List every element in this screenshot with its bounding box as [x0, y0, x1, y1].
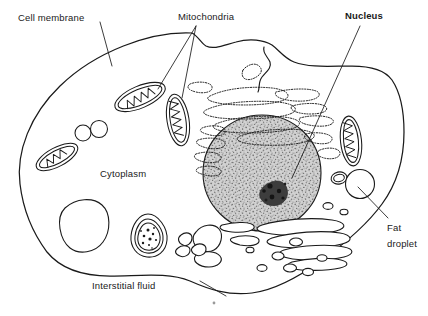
leader-cell-membrane	[100, 22, 112, 66]
lysosome	[131, 214, 167, 257]
label-mitochondria: Mitochondria	[178, 11, 234, 23]
leader-interstitial-fluid	[200, 281, 226, 296]
er-membrane-connection	[258, 47, 270, 92]
label-interstitial-fluid: Interstitial fluid	[92, 280, 155, 292]
label-cytoplasm: Cytoplasm	[100, 168, 146, 180]
mitochondrion-right	[338, 115, 364, 167]
mitochondrion-left	[32, 138, 82, 176]
mitochondrion-centre	[163, 93, 193, 148]
fat-droplet	[346, 170, 375, 199]
label-fat-droplet-line2: droplet	[387, 238, 417, 250]
label-nucleus: Nucleus	[345, 10, 383, 22]
label-fat-droplet-line1: Fat	[387, 222, 401, 234]
vacuole	[60, 200, 109, 252]
label-cell-membrane: Cell membrane	[18, 12, 84, 24]
registration-mark	[213, 302, 216, 305]
vesicle-group	[75, 121, 108, 142]
cell-diagram-canvas	[0, 0, 428, 316]
cell-diagram: Cell membrane Mitochondria Nucleus Cytop…	[0, 0, 428, 316]
centriole-region	[176, 225, 222, 267]
mitochondrion-upper-left	[111, 76, 169, 117]
